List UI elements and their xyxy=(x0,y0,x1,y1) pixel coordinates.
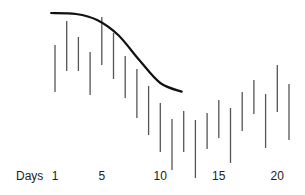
x-tick-label: 5 xyxy=(98,169,105,183)
x-axis-labels: Days 15101520 xyxy=(16,169,284,183)
x-tick-label: 20 xyxy=(271,169,285,183)
chart: Days 15101520 xyxy=(0,0,305,195)
x-tick-label: 15 xyxy=(212,169,226,183)
range-bars xyxy=(55,17,289,178)
x-tick-label: 10 xyxy=(154,169,168,183)
x-axis-title: Days xyxy=(16,169,43,183)
x-tick-label: 1 xyxy=(52,169,59,183)
trend-curve xyxy=(50,13,182,92)
